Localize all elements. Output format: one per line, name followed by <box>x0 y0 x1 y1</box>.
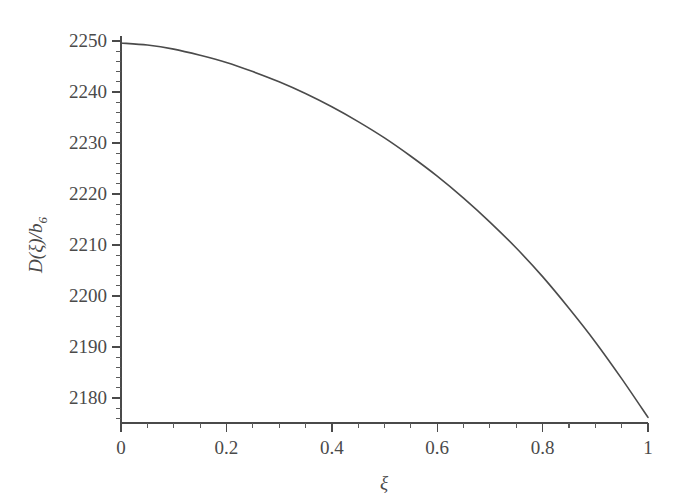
figure-panel: 21802190220022102220223022402250 00.20.4… <box>0 0 681 498</box>
x-axis-title: ξ <box>380 472 389 493</box>
x-tick-label: 0.8 <box>531 437 555 458</box>
y-tick-label: 2220 <box>69 183 107 204</box>
x-tick-label: 0 <box>116 437 126 458</box>
x-tick-label: 0.4 <box>320 437 344 458</box>
y-tick-label: 2250 <box>69 30 107 51</box>
x-tick-label: 1 <box>643 437 653 458</box>
x-tick-label: 0.6 <box>425 437 449 458</box>
x-tick-label: 0.2 <box>215 437 239 458</box>
y-tick-label: 2200 <box>69 285 107 306</box>
y-axis-title-subscript: 6 <box>35 217 50 224</box>
y-tick-label: 2210 <box>69 234 107 255</box>
y-tick-label: 2230 <box>69 132 107 153</box>
line-chart: 21802190220022102220223022402250 00.20.4… <box>0 0 681 498</box>
y-tick-label: 2240 <box>69 81 107 102</box>
y-tick-label: 2190 <box>69 336 107 357</box>
y-axis-title-main: D(ξ)/b <box>25 224 47 274</box>
y-tick-label: 2180 <box>69 387 107 408</box>
